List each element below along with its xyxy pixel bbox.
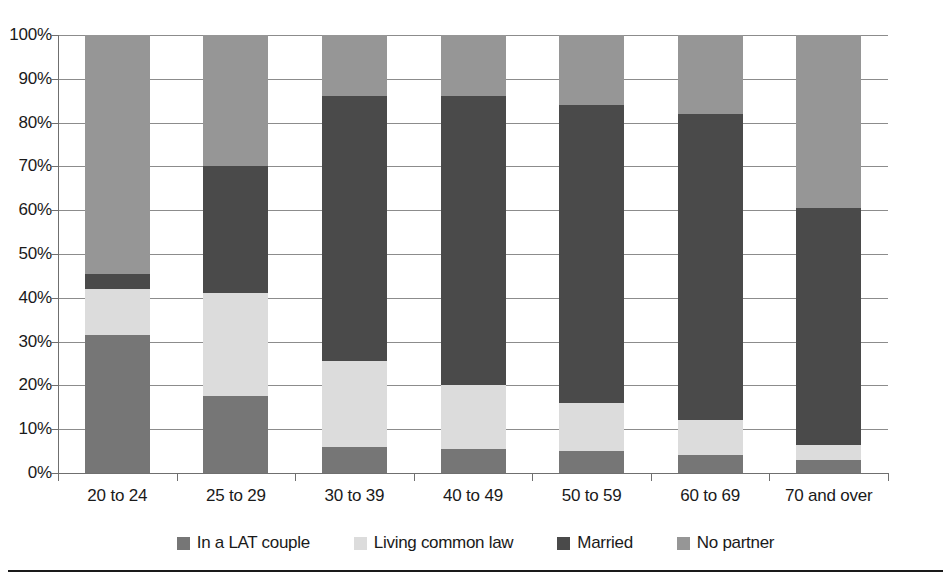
- legend-label: No partner: [697, 533, 774, 553]
- bar-group[interactable]: [559, 35, 624, 473]
- bar-segment[interactable]: [203, 166, 268, 293]
- x-axis-tick-mark: [58, 473, 59, 481]
- y-axis-tick-label: 70%: [4, 156, 52, 176]
- bar-segment[interactable]: [678, 455, 743, 473]
- bar-segment[interactable]: [678, 114, 743, 421]
- plot-area: [58, 35, 888, 473]
- x-axis-tick-mark: [888, 473, 889, 481]
- legend-item[interactable]: In a LAT couple: [177, 533, 310, 553]
- legend-item[interactable]: No partner: [677, 533, 774, 553]
- y-axis-tick-mark: [50, 429, 59, 430]
- bar-stack: [441, 35, 506, 473]
- bar-segment[interactable]: [796, 35, 861, 208]
- x-axis-tick-label: 50 to 59: [532, 486, 651, 506]
- y-axis-tick-mark: [50, 342, 59, 343]
- bar-segment[interactable]: [322, 35, 387, 96]
- y-axis-tick-label: 0%: [4, 463, 52, 483]
- bar-stack: [322, 35, 387, 473]
- legend-item[interactable]: Living common law: [354, 533, 513, 553]
- y-axis-tick-label: 100%: [4, 25, 52, 45]
- bar-segment[interactable]: [559, 35, 624, 105]
- bar-segment[interactable]: [203, 293, 268, 396]
- bar-segment[interactable]: [203, 396, 268, 473]
- x-axis-tick-mark: [177, 473, 178, 481]
- y-axis-tick-label: 80%: [4, 113, 52, 133]
- x-axis-tick-mark: [414, 473, 415, 481]
- bar-stack: [796, 35, 861, 473]
- y-axis-tick-mark: [50, 35, 59, 36]
- bar-stack: [203, 35, 268, 473]
- axis-baseline: [58, 473, 888, 474]
- x-axis-tick-label: 30 to 39: [295, 486, 414, 506]
- bar-group[interactable]: [796, 35, 861, 473]
- bar-segment[interactable]: [85, 335, 150, 473]
- x-axis-tick-mark: [651, 473, 652, 481]
- legend-item[interactable]: Married: [557, 533, 633, 553]
- y-axis-tick-mark: [50, 254, 59, 255]
- x-axis-tick-label: 20 to 24: [58, 486, 177, 506]
- bar-segment[interactable]: [559, 403, 624, 451]
- bar-group[interactable]: [322, 35, 387, 473]
- y-axis-tick-label: 40%: [4, 288, 52, 308]
- y-axis-tick-mark: [50, 473, 59, 474]
- y-axis-tick-mark: [50, 123, 59, 124]
- bar-segment[interactable]: [322, 361, 387, 446]
- y-axis-tick-mark: [50, 79, 59, 80]
- legend-label: In a LAT couple: [197, 533, 310, 553]
- bar-segment[interactable]: [796, 445, 861, 460]
- x-axis-tick-mark: [769, 473, 770, 481]
- bar-segment[interactable]: [85, 289, 150, 335]
- bar-group[interactable]: [203, 35, 268, 473]
- bar-group[interactable]: [85, 35, 150, 473]
- y-axis-tick-labels: 100%90%80%70%60%50%40%30%20%10%0%: [0, 0, 52, 587]
- y-axis-tick-mark: [50, 166, 59, 167]
- bar-group[interactable]: [441, 35, 506, 473]
- bar-segment[interactable]: [85, 274, 150, 289]
- bar-segment[interactable]: [441, 96, 506, 385]
- bar-segment[interactable]: [441, 385, 506, 449]
- y-axis-tick-mark: [50, 210, 59, 211]
- y-axis-tick-label: 10%: [4, 419, 52, 439]
- bottom-divider: [8, 570, 943, 572]
- bar-segment[interactable]: [203, 35, 268, 166]
- bar-segment[interactable]: [441, 35, 506, 96]
- x-axis-tick-label: 70 and over: [769, 486, 888, 506]
- bar-stack: [559, 35, 624, 473]
- y-axis-tick-label: 90%: [4, 69, 52, 89]
- bar-group[interactable]: [678, 35, 743, 473]
- x-axis-tick-label: 60 to 69: [651, 486, 770, 506]
- bar-segment[interactable]: [559, 451, 624, 473]
- bar-segment[interactable]: [796, 460, 861, 473]
- x-axis-tick-mark: [532, 473, 533, 481]
- y-axis-tick-label: 60%: [4, 200, 52, 220]
- bar-segment[interactable]: [441, 449, 506, 473]
- bar-segment[interactable]: [322, 96, 387, 361]
- y-axis-tick-mark: [50, 385, 59, 386]
- legend-label: Married: [577, 533, 633, 553]
- legend-label: Living common law: [374, 533, 513, 553]
- legend-swatch-icon: [354, 537, 367, 550]
- legend-swatch-icon: [177, 537, 190, 550]
- legend-swatch-icon: [677, 537, 690, 550]
- bar-stack: [85, 35, 150, 473]
- bar-segment[interactable]: [678, 420, 743, 455]
- chart-page: 100%90%80%70%60%50%40%30%20%10%0% 20 to …: [0, 0, 951, 587]
- bar-segment[interactable]: [678, 35, 743, 114]
- y-axis-tick-mark: [50, 298, 59, 299]
- bar-segment[interactable]: [559, 105, 624, 403]
- bar-segment[interactable]: [322, 447, 387, 473]
- bar-segment[interactable]: [85, 35, 150, 274]
- x-axis-tick-mark: [295, 473, 296, 481]
- y-axis-tick-label: 30%: [4, 332, 52, 352]
- bar-segment[interactable]: [796, 208, 861, 445]
- x-axis-tick-label: 40 to 49: [414, 486, 533, 506]
- x-axis-tick-label: 25 to 29: [177, 486, 296, 506]
- y-axis-tick-label: 20%: [4, 375, 52, 395]
- legend-swatch-icon: [557, 537, 570, 550]
- y-axis-tick-label: 50%: [4, 244, 52, 264]
- chart-legend: In a LAT coupleLiving common lawMarriedN…: [0, 528, 951, 558]
- bar-stack: [678, 35, 743, 473]
